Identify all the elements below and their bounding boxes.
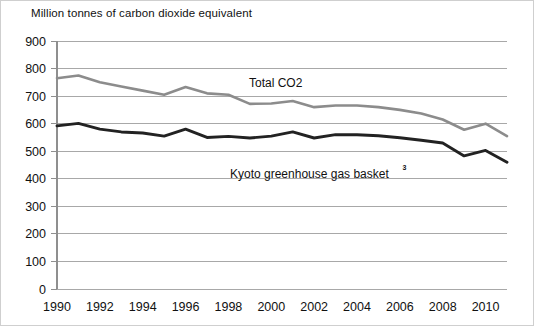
y-tick-label: 100 — [25, 255, 46, 269]
y-tick-label: 400 — [25, 172, 46, 186]
y-tick-label: 700 — [25, 90, 46, 104]
x-tick-label: 1994 — [129, 300, 157, 314]
y-tick-label: 900 — [25, 35, 46, 49]
y-tick-label: 0 — [39, 283, 46, 297]
x-tick-label: 1990 — [43, 300, 71, 314]
chart-frame: Million tonnes of carbon dioxide equival… — [0, 0, 534, 326]
series-annotations: Total CO2Kyoto greenhouse gas basket3 — [230, 76, 406, 181]
x-tick-label: 2010 — [472, 300, 500, 314]
x-tick-label: 1996 — [172, 300, 200, 314]
chart-plot-area: 0100200300400500600700800900 19901992199… — [1, 1, 534, 326]
y-tick-label: 600 — [25, 117, 46, 131]
x-tick-label: 2004 — [343, 300, 371, 314]
x-tick-label: 2000 — [257, 300, 285, 314]
kyoto-basket-label-superscript: 3 — [402, 164, 406, 171]
x-tick-label: 2006 — [386, 300, 414, 314]
y-axis-tick-labels: 0100200300400500600700800900 — [25, 35, 46, 297]
series-line-kyoto-basket — [57, 123, 507, 162]
x-axis-tick-labels: 1990199219941996199820002002200420062008… — [43, 300, 499, 314]
y-tick-label: 500 — [25, 145, 46, 159]
y-tick-label: 200 — [25, 227, 46, 241]
y-tick-label: 800 — [25, 62, 46, 76]
x-tick-label: 1998 — [215, 300, 243, 314]
x-tick-label: 2002 — [300, 300, 328, 314]
x-tick-label: 1992 — [86, 300, 114, 314]
total-co2-label: Total CO2 — [249, 76, 303, 90]
y-tick-label: 300 — [25, 200, 46, 214]
kyoto-basket-label: Kyoto greenhouse gas basket — [230, 167, 389, 181]
x-tick-label: 2008 — [429, 300, 457, 314]
line-chart-svg: 0100200300400500600700800900 19901992199… — [1, 1, 534, 326]
